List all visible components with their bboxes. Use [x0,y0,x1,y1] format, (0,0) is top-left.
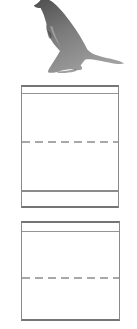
writing-box-2-top-guide-line [22,231,119,232]
worksheet-page [0,0,137,329]
kangaroo-image [33,0,125,74]
writing-box-1-top-guide-line [22,93,118,94]
writing-box-2-dashed-midline [22,277,119,279]
kangaroo-silhouette [33,0,125,74]
writing-box-1-dashed-midline [22,141,118,143]
writing-box-1-baseline [22,190,118,192]
writing-box-1 [21,85,119,208]
writing-box-2 [21,221,120,321]
